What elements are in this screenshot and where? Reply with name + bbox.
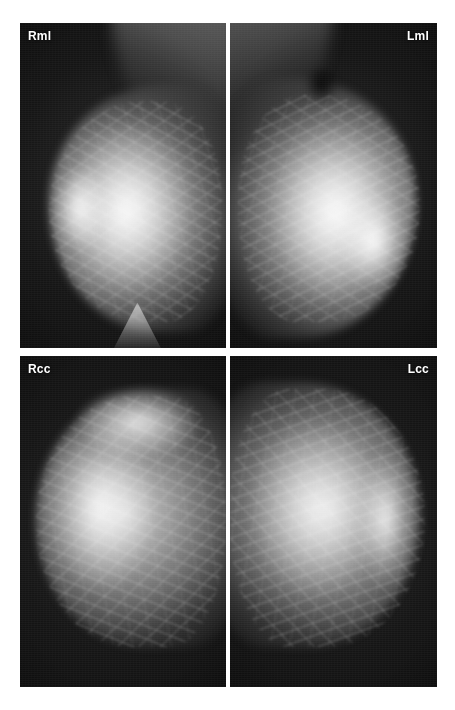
fibrous-strands [230, 389, 425, 647]
radiograph-image-rcc [20, 356, 226, 687]
panel-rcc[interactable]: Rcc [20, 356, 226, 687]
panel-label-lml: Lml [407, 29, 429, 43]
radiograph-image-rml [20, 23, 226, 348]
panel-label-rcc: Rcc [28, 362, 51, 376]
radiograph-image-lml [230, 23, 437, 348]
panel-label-rml: Rml [28, 29, 51, 43]
mammogram-figure: Rml Lml Rcc [0, 0, 455, 710]
panel-lml[interactable]: Lml [230, 23, 437, 348]
panel-lcc[interactable]: Lcc [230, 356, 437, 687]
fibrous-strands [36, 396, 226, 648]
radiograph-image-lcc [230, 356, 437, 687]
panel-rml[interactable]: Rml [20, 23, 226, 348]
panel-label-lcc: Lcc [408, 362, 429, 376]
